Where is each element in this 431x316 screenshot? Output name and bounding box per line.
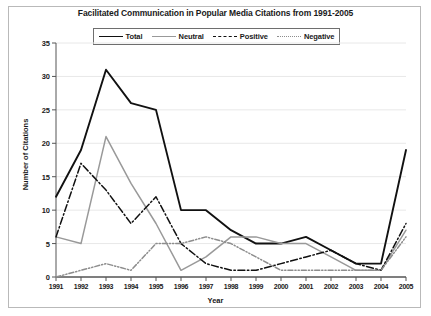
x-tick-label: 1992 <box>68 283 94 290</box>
chart-svg <box>0 0 431 316</box>
x-tick-label: 1991 <box>43 283 69 290</box>
y-tick-label: 5 <box>32 240 50 249</box>
y-tick-label: 20 <box>32 139 50 148</box>
x-axis-label: Year <box>0 296 431 305</box>
plot-area: 05101520253035 1991199219931994199519961… <box>0 0 431 316</box>
x-tick-label: 2004 <box>368 283 394 290</box>
x-tick-label: 1998 <box>218 283 244 290</box>
x-tick-label: 1996 <box>168 283 194 290</box>
y-tick-label: 35 <box>32 39 50 48</box>
x-tick-label: 1995 <box>143 283 169 290</box>
series-line-total <box>56 70 406 264</box>
x-tick-label: 2003 <box>343 283 369 290</box>
x-tick-label: 1993 <box>93 283 119 290</box>
y-tick-label: 0 <box>32 273 50 282</box>
x-tick-label: 2005 <box>393 283 419 290</box>
x-tick-label: 2001 <box>293 283 319 290</box>
x-tick-label: 1997 <box>193 283 219 290</box>
y-tick-label: 10 <box>32 206 50 215</box>
x-tick-label: 1994 <box>118 283 144 290</box>
y-axis-label: Number of Citations <box>21 100 30 210</box>
y-tick-label: 15 <box>32 173 50 182</box>
x-tick-label: 2000 <box>268 283 294 290</box>
series-line-positive <box>56 163 406 270</box>
series-line-neutral <box>56 137 406 271</box>
y-tick-label: 30 <box>32 72 50 81</box>
x-tick-label: 1999 <box>243 283 269 290</box>
y-tick-label: 25 <box>32 106 50 115</box>
x-tick-label: 2002 <box>318 283 344 290</box>
